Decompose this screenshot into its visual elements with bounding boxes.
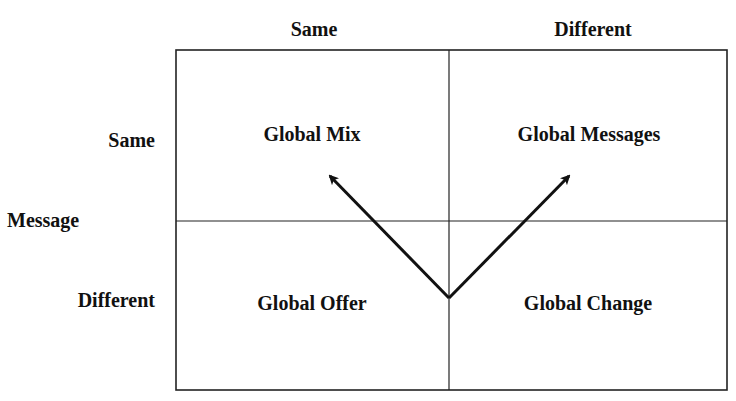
arrow-to-global-mix bbox=[330, 176, 449, 298]
cell-global-messages: Global Messages bbox=[518, 123, 661, 146]
matrix-diagram bbox=[0, 0, 736, 401]
cell-global-mix: Global Mix bbox=[263, 123, 360, 146]
cell-global-change: Global Change bbox=[524, 292, 652, 315]
row-header-same: Same bbox=[108, 129, 155, 152]
matrix-border bbox=[176, 50, 727, 390]
arrow-to-global-messages bbox=[449, 176, 569, 298]
row-header-different: Different bbox=[78, 289, 155, 312]
column-header-same: Same bbox=[291, 18, 338, 41]
row-axis-label: Message bbox=[7, 209, 79, 232]
column-header-different: Different bbox=[554, 18, 631, 41]
cell-global-offer: Global Offer bbox=[257, 292, 366, 315]
